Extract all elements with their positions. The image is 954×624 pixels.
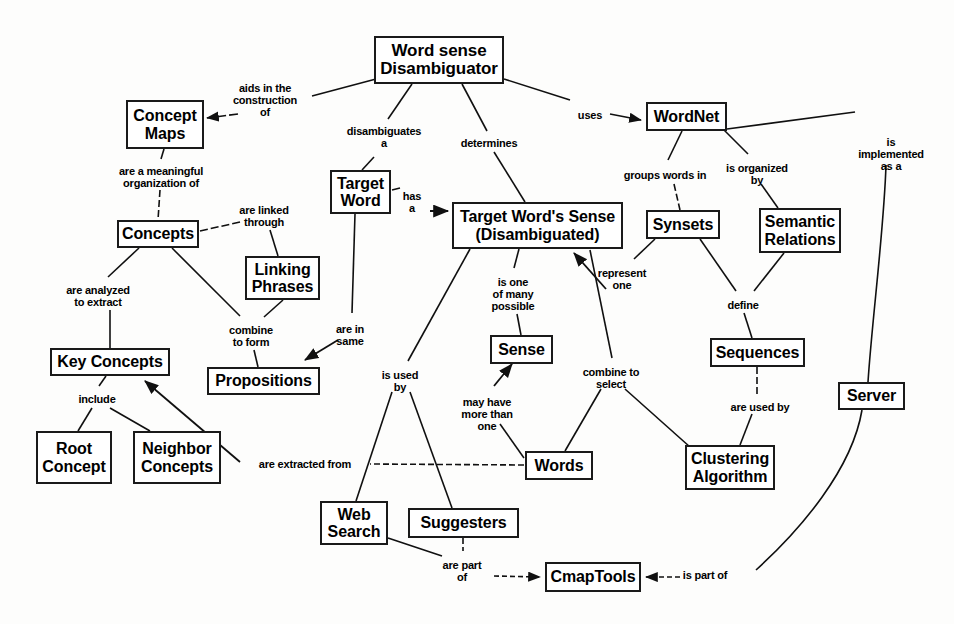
node-sense[interactable]: Sense (490, 335, 553, 364)
link-label-define[interactable]: define (727, 300, 758, 312)
link-label-are_in_same[interactable]: are in same (336, 324, 364, 348)
node-tws[interactable]: Target Word's Sense (Disambiguated) (452, 202, 623, 249)
edge-tws-oneofmany (514, 249, 519, 268)
edge-disambiguates-targetword (362, 157, 374, 170)
link-label-linked[interactable]: are linked through (239, 205, 288, 229)
edge-wordnet-groups (668, 131, 682, 160)
link-label-has_a[interactable]: has a (403, 191, 421, 215)
link-label-groups[interactable]: groups words in (624, 170, 707, 182)
edge-wordnet-organized (724, 130, 748, 154)
edge-semantic-define (754, 253, 784, 291)
link-label-include[interactable]: include (78, 394, 115, 406)
edge-combineselect-clustering (625, 389, 690, 447)
edge-combineform-propositions (254, 350, 258, 367)
link-label-meaningful[interactable]: are a meaningful organization of (119, 166, 203, 190)
edge-usedby-clustering (740, 414, 752, 445)
link-label-analyzed[interactable]: are analyzed to extract (66, 285, 130, 309)
edge-include-rootconcept (78, 408, 92, 431)
edge-wsd-determines (462, 84, 487, 131)
node-linking[interactable]: Linking Phrases (245, 256, 320, 300)
edge-linking-combineform (264, 300, 283, 317)
edge-mayhave-sense (494, 364, 512, 386)
edge-define-sequences (744, 313, 752, 338)
edge-wsd-disambiguates (388, 84, 412, 119)
edge-concepts-linked (200, 222, 240, 231)
node-server[interactable]: Server (838, 382, 905, 410)
edge-words-extracted (370, 464, 524, 465)
node-cmaptools[interactable]: CmapTools (545, 562, 641, 592)
edge-wordnet-isimpl (727, 112, 855, 129)
link-label-is_part_of[interactable]: is part of (683, 570, 727, 582)
node-clustering[interactable]: Clustering Algorithm (685, 445, 775, 490)
node-neighbor[interactable]: Neighbor Concepts (133, 431, 221, 484)
edge-oneofmany-sense (517, 314, 521, 335)
node-web_search[interactable]: Web Search (320, 501, 388, 545)
link-label-represent[interactable]: represent one (598, 268, 646, 292)
node-target_word[interactable]: Target Word (330, 170, 391, 214)
edge-combineselect-words (565, 389, 601, 451)
edge-include-neighbor (110, 408, 150, 431)
edge-arepartof-cmaptools (494, 576, 540, 577)
node-words[interactable]: Words (525, 451, 593, 480)
edge-isusedby-websearch (356, 392, 392, 501)
link-label-aids[interactable]: aids in the construction of (233, 83, 297, 119)
link-label-determines[interactable]: determines (461, 138, 518, 150)
link-label-may_have[interactable]: may have more than one (461, 397, 512, 433)
node-propositions[interactable]: Propositions (207, 367, 320, 395)
link-label-one_of_many[interactable]: is one of many possible (491, 277, 534, 313)
edge-websearch-arepartof (388, 538, 442, 556)
node-sequences[interactable]: Sequences (710, 338, 805, 367)
link-label-is_used_by[interactable]: is used by (382, 370, 419, 394)
node-concepts[interactable]: Concepts (117, 220, 199, 248)
node-wsd[interactable]: Word sense Disambiguator (374, 36, 504, 84)
node-synsets[interactable]: Synsets (646, 210, 720, 239)
edge-server-ispartof (756, 410, 862, 570)
edge-isimpl-server (868, 165, 886, 382)
edge-areinsame-propositions (305, 340, 338, 360)
node-suggesters[interactable]: Suggesters (408, 508, 519, 538)
edge-tws-isusedby (408, 249, 470, 361)
edge-synsets-define (700, 239, 736, 291)
node-semantic[interactable]: Semantic Relations (759, 208, 841, 253)
link-label-extracted[interactable]: are extracted from (259, 459, 351, 471)
node-concept_maps[interactable]: Concept Maps (126, 100, 204, 149)
edge-wsd-uses (504, 79, 570, 100)
edge-concepts-combineform (172, 248, 240, 316)
edge-organized-semantic (761, 184, 778, 208)
edge-linked-linking (270, 230, 278, 256)
node-key_concepts[interactable]: Key Concepts (50, 348, 170, 376)
edge-groups-synsets (674, 184, 680, 210)
edge-isusedby-suggesters (410, 392, 452, 508)
edge-uses-wordnet (610, 114, 641, 120)
link-label-used_by[interactable]: are used by (731, 402, 790, 414)
link-label-disambiguates[interactable]: disambiguates a (347, 126, 421, 150)
edge-targetword-areinsame (352, 214, 355, 313)
link-label-combine_sel[interactable]: combine to select (583, 367, 640, 391)
edge-targetword-hasa (392, 188, 400, 190)
edge-meaningful-concepts (158, 190, 160, 220)
node-root_concept[interactable]: Root Concept (36, 431, 112, 484)
edge-concepts-analyzed (108, 248, 139, 277)
link-label-is_impl[interactable]: is implemented as a (858, 137, 924, 173)
link-label-combine_form[interactable]: combine to form (229, 325, 273, 349)
concept-map-canvas: Word sense DisambiguatorConcept MapsWord… (0, 0, 954, 624)
edge-wsd-aids (312, 79, 376, 96)
link-label-organized[interactable]: is organized by (726, 163, 788, 187)
link-label-are_part_of[interactable]: are part of (443, 560, 482, 584)
edge-synsets-represent (634, 239, 655, 259)
edge-keyconcepts-include (99, 376, 106, 386)
node-wordnet[interactable]: WordNet (646, 102, 727, 131)
edge-determines-tws (494, 152, 525, 202)
edge-conceptmaps-meaningful (161, 149, 164, 159)
link-label-uses[interactable]: uses (578, 110, 602, 122)
